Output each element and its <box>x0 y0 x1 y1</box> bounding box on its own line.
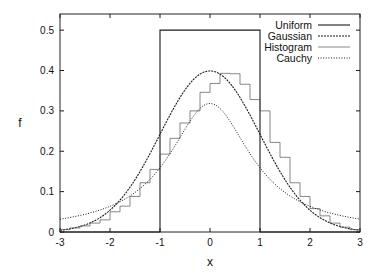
y-tick-label: 0.4 <box>40 65 54 76</box>
series-cauchy <box>60 104 360 220</box>
x-axis-label: x <box>207 255 213 269</box>
x-tick-label: -1 <box>156 237 165 248</box>
y-axis-label: f <box>18 116 22 130</box>
plot-frame <box>60 14 360 232</box>
x-tick-label: 0 <box>207 237 213 248</box>
series-uniform <box>60 30 360 232</box>
y-tick-label: 0.3 <box>40 105 54 116</box>
x-tick-label: 3 <box>357 237 363 248</box>
x-tick-label: -3 <box>56 237 65 248</box>
series-layer <box>60 30 360 232</box>
x-tick-label: -2 <box>106 237 115 248</box>
legend-label: Cauchy <box>276 52 312 64</box>
y-axis-ticks: 00.10.20.30.40.5 <box>40 25 360 238</box>
y-tick-label: 0 <box>48 227 54 238</box>
plot-border <box>60 14 360 232</box>
y-tick-label: 0.1 <box>40 186 54 197</box>
x-tick-label: 2 <box>307 237 313 248</box>
legend-item-cauchy: Cauchy <box>276 52 350 64</box>
y-tick-label: 0.5 <box>40 25 54 36</box>
x-axis-ticks: -3-2-10123 <box>56 14 364 248</box>
x-tick-label: 1 <box>257 237 263 248</box>
chart-canvas: -3-2-10123 00.10.20.30.40.5 UniformGauss… <box>0 0 378 277</box>
legend: UniformGaussianHistogramCauchy <box>264 19 350 64</box>
series-gaussian <box>60 71 360 230</box>
y-tick-label: 0.2 <box>40 146 54 157</box>
